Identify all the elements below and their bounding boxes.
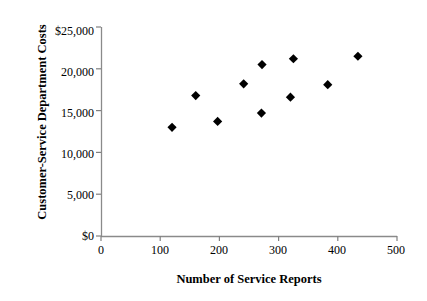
data-point [257,109,266,118]
axis-lines [101,27,397,237]
data-point [286,93,295,102]
x-axis-title: Number of Service Reports [101,272,397,287]
data-point [191,91,200,100]
data-point [289,54,298,63]
data-point [167,123,176,132]
plot-area [0,0,427,301]
scatter-chart: Customer-Service Department Costs $25,00… [0,0,427,301]
data-point [257,60,266,69]
data-point [213,117,222,126]
data-point [323,80,332,89]
data-points [167,52,362,132]
axis-ticks [96,27,397,241]
data-point [353,52,362,61]
data-point [239,79,248,88]
